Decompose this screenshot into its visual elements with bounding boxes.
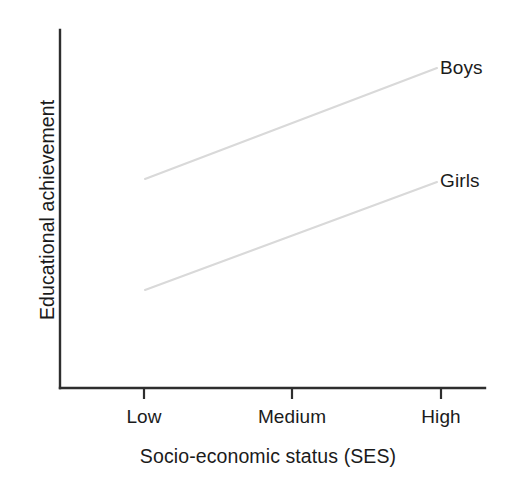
series-label-boys: Boys [440,58,483,77]
y-axis-title: Educational achievement [38,100,58,320]
series-line-boys [145,68,437,179]
series-line-girls [145,182,437,290]
chart-figure: Boys Girls Low Medium High Socio-economi… [0,0,510,486]
x-tick-label-low: Low [126,407,161,426]
x-axis-title: Socio-economic status (SES) [140,447,396,467]
x-tick-label-high: High [421,407,460,426]
series-label-girls: Girls [440,171,480,190]
x-tick-label-medium: Medium [258,407,326,426]
